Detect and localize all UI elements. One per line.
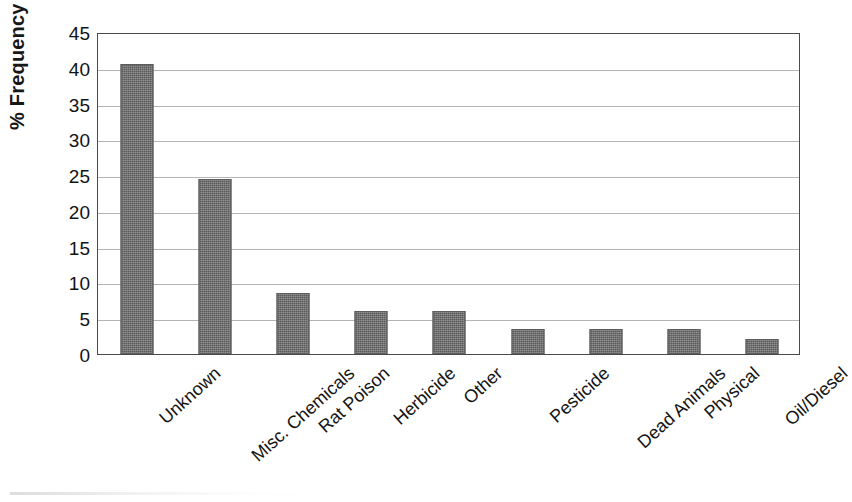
y-axis-tick-0: 0 — [44, 346, 90, 365]
y-axis-title: % Frequency — [6, 0, 40, 130]
y-axis-tick-25: 25 — [44, 167, 90, 186]
x-label-slot: Oil/Diesel — [722, 355, 800, 495]
bar-slot — [645, 34, 723, 354]
bar-slot — [410, 34, 488, 354]
bar — [355, 311, 388, 354]
bar-slot — [254, 34, 332, 354]
y-axis-tick-20: 20 — [44, 202, 90, 221]
bar-slot — [176, 34, 254, 354]
bar — [277, 293, 310, 354]
bar — [667, 329, 700, 354]
x-label-slot: Herbicide — [331, 355, 409, 495]
x-label-slot: Rat Poison — [253, 355, 331, 495]
y-axis-tick-45: 45 — [44, 24, 90, 43]
y-axis-tick-10: 10 — [44, 274, 90, 293]
bar-slot — [567, 34, 645, 354]
y-axis-tick-30: 30 — [44, 131, 90, 150]
plot-area — [97, 33, 800, 355]
bar-slot — [489, 34, 567, 354]
bar — [433, 311, 466, 354]
y-axis-tick-labels: 051015202530354045 — [44, 0, 90, 502]
bar — [199, 179, 232, 354]
x-label-slot: Unknown — [97, 355, 175, 495]
bar-slot — [723, 34, 801, 354]
page-edge-artifact — [10, 492, 430, 495]
y-axis-tick-5: 5 — [44, 310, 90, 329]
bars-layer — [98, 34, 799, 354]
x-label-slot: Physical — [644, 355, 722, 495]
x-label-slot: Other — [409, 355, 487, 495]
x-label-slot: Misc. Chemicals — [175, 355, 253, 495]
bar — [589, 329, 622, 354]
bar-slot — [98, 34, 176, 354]
y-axis-tick-15: 15 — [44, 238, 90, 257]
bar — [121, 64, 154, 354]
bar — [745, 339, 778, 354]
x-axis-tick-label: Oil/Diesel — [781, 363, 852, 430]
x-axis-tick-labels: UnknownMisc. ChemicalsRat PoisonHerbicid… — [97, 355, 800, 495]
y-axis-tick-40: 40 — [44, 59, 90, 78]
bar-slot — [332, 34, 410, 354]
x-label-slot: Pesticide — [488, 355, 566, 495]
x-label-slot: Dead Animals — [566, 355, 644, 495]
bar — [511, 329, 544, 354]
y-axis-tick-35: 35 — [44, 95, 90, 114]
